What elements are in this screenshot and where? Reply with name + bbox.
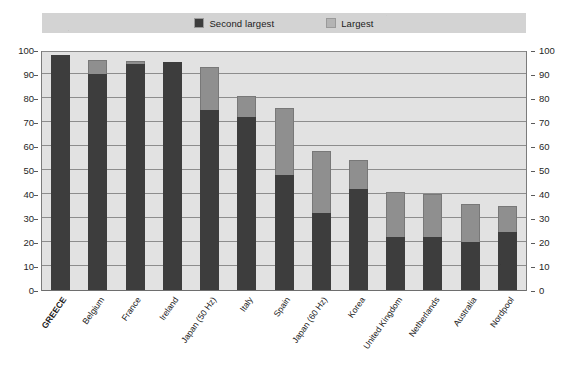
y-axis-left-tick-mark: [34, 171, 38, 172]
bar-segment-second-largest[interactable]: [88, 74, 107, 290]
y-axis-right-tick-mark: [531, 267, 535, 268]
bar-segment-second-largest[interactable]: [200, 110, 219, 290]
y-axis-left: 1009080706050403020100: [2, 51, 38, 291]
bar-slot[interactable]: [377, 52, 414, 290]
y-axis-left-tick-mark: [34, 195, 38, 196]
x-axis-label-slot: Belgium: [79, 292, 116, 376]
chart-legend: Second largest Largest: [42, 13, 526, 33]
y-axis-right-tick-mark: [531, 219, 535, 220]
bar-segment-largest[interactable]: [275, 108, 294, 175]
bar-slot[interactable]: [42, 52, 79, 290]
y-axis-right-tick-mark: [531, 243, 535, 244]
y-axis-right-tick-mark: [531, 171, 535, 172]
x-axis-label: Spain: [271, 295, 292, 319]
x-axis-label-slot: GREECE: [42, 292, 79, 376]
x-axis-label-slot: Australia: [452, 292, 489, 376]
legend-label-largest: Largest: [341, 18, 373, 29]
chart-figure: Second largest Largest 10090807060504030…: [0, 0, 569, 378]
y-axis-right-tick-mark: [531, 291, 535, 292]
bar-slot[interactable]: [303, 52, 340, 290]
bar-slot[interactable]: [340, 52, 377, 290]
legend-entry-second-largest: Second largest: [194, 18, 274, 29]
x-axis-label: France: [120, 295, 144, 323]
bar-slot[interactable]: [116, 52, 153, 290]
x-axis-label: Nordpool: [487, 295, 515, 329]
bar-stack[interactable]: [461, 204, 480, 290]
bar-segment-second-largest[interactable]: [126, 64, 145, 290]
bar-segment-largest[interactable]: [461, 204, 480, 242]
bars-layer: [42, 52, 526, 290]
y-axis-left-tick-mark: [34, 291, 38, 292]
bar-slot[interactable]: [489, 52, 526, 290]
x-axis-label: Australia: [451, 295, 478, 328]
bar-segment-second-largest[interactable]: [349, 189, 368, 290]
bar-slot[interactable]: [414, 52, 451, 290]
bar-segment-second-largest[interactable]: [423, 237, 442, 290]
y-axis-right-tick-mark: [531, 99, 535, 100]
bar-stack[interactable]: [200, 67, 219, 290]
gridline: [42, 49, 526, 50]
bar-segment-largest[interactable]: [88, 60, 107, 74]
bar-stack[interactable]: [51, 55, 70, 290]
y-axis-right-tick-mark: [531, 75, 535, 76]
bar-stack[interactable]: [237, 96, 256, 290]
bar-stack[interactable]: [275, 108, 294, 290]
plot-frame: [42, 51, 526, 291]
bar-segment-second-largest[interactable]: [237, 117, 256, 290]
y-axis-left-tick-mark: [34, 99, 38, 100]
bar-slot[interactable]: [191, 52, 228, 290]
bar-stack[interactable]: [163, 62, 182, 290]
x-axis-label: Belgium: [80, 295, 106, 326]
legend-swatch-largest: [326, 18, 336, 28]
y-axis-left-tick-mark: [34, 123, 38, 124]
y-axis-right-tick-mark: [531, 123, 535, 124]
bar-stack[interactable]: [349, 160, 368, 290]
bar-stack[interactable]: [386, 192, 405, 290]
bar-segment-second-largest[interactable]: [498, 232, 517, 290]
plot-area: [42, 52, 526, 290]
y-axis-left-tick-mark: [34, 51, 38, 52]
x-axis-label-slot: Nordpool: [489, 292, 526, 376]
y-axis-right-tick-mark: [531, 195, 535, 196]
legend-label-second-largest: Second largest: [209, 18, 274, 29]
bar-segment-largest[interactable]: [237, 96, 256, 118]
bar-segment-second-largest[interactable]: [163, 62, 182, 290]
y-axis-left-tick-mark: [34, 243, 38, 244]
bar-stack[interactable]: [423, 194, 442, 290]
bar-slot[interactable]: [154, 52, 191, 290]
bar-stack[interactable]: [498, 206, 517, 290]
bar-stack[interactable]: [126, 61, 145, 290]
bar-stack[interactable]: [312, 151, 331, 290]
bar-segment-largest[interactable]: [386, 192, 405, 238]
bar-segment-largest[interactable]: [200, 67, 219, 110]
y-axis-left-tick-mark: [34, 267, 38, 268]
y-axis-spine-left: [41, 51, 42, 291]
y-axis-right: 1009080706050403020100: [530, 51, 566, 291]
bar-segment-second-largest[interactable]: [386, 237, 405, 290]
bar-segment-largest[interactable]: [423, 194, 442, 237]
x-axis-category-labels: GREECEBelgiumFranceIrelandJapan (50 Hz)I…: [42, 292, 526, 376]
bar-slot[interactable]: [79, 52, 116, 290]
y-axis-right-tick-mark: [531, 147, 535, 148]
bar-segment-second-largest[interactable]: [312, 213, 331, 290]
x-axis-label-slot: Japan (60 Hz): [303, 292, 340, 376]
bar-segment-largest[interactable]: [312, 151, 331, 213]
legend-entry-largest: Largest: [326, 18, 373, 29]
bar-segment-second-largest[interactable]: [275, 175, 294, 290]
bar-stack[interactable]: [88, 60, 107, 290]
y-axis-left-tick-mark: [34, 147, 38, 148]
y-axis-left-tick-mark: [34, 75, 38, 76]
bar-segment-largest[interactable]: [498, 206, 517, 232]
x-axis-label-slot: France: [116, 292, 153, 376]
bar-segment-second-largest[interactable]: [51, 55, 70, 290]
bar-slot[interactable]: [228, 52, 265, 290]
x-axis-label-slot: Italy: [228, 292, 265, 376]
x-axis-label: Korea: [345, 295, 366, 320]
bar-slot[interactable]: [265, 52, 302, 290]
bar-segment-second-largest[interactable]: [461, 242, 480, 290]
x-axis-label: GREECE: [40, 295, 69, 330]
bar-segment-largest[interactable]: [349, 160, 368, 189]
x-axis-label: Italy: [238, 295, 255, 314]
legend-swatch-second-largest: [194, 18, 204, 28]
bar-slot[interactable]: [452, 52, 489, 290]
